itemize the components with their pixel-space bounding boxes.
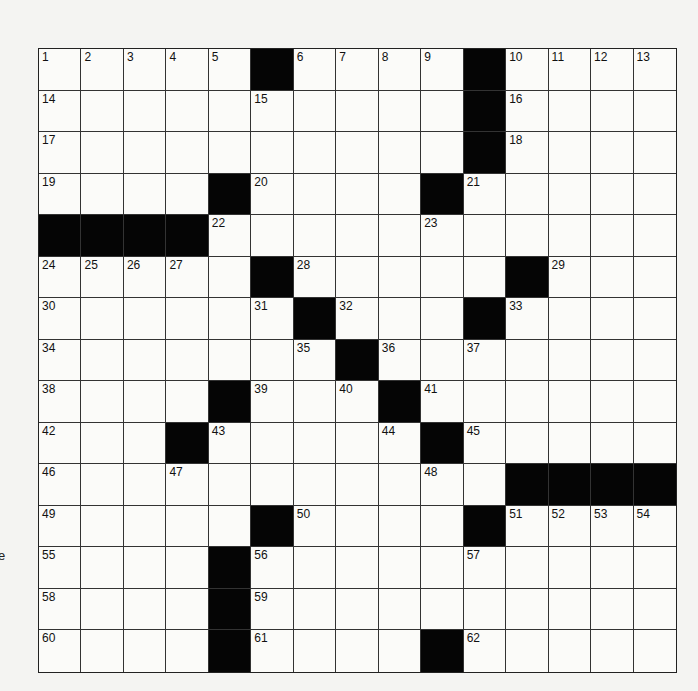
crossword-cell[interactable] <box>294 423 336 465</box>
crossword-cell[interactable] <box>379 215 421 257</box>
crossword-cell[interactable]: 55 <box>39 547 81 589</box>
crossword-cell[interactable] <box>506 589 548 631</box>
crossword-cell[interactable] <box>549 630 591 672</box>
crossword-cell[interactable]: 58 <box>39 589 81 631</box>
crossword-cell[interactable] <box>379 132 421 174</box>
crossword-cell[interactable] <box>251 464 293 506</box>
crossword-cell[interactable] <box>209 257 251 299</box>
crossword-cell[interactable] <box>549 381 591 423</box>
crossword-cell[interactable] <box>81 132 123 174</box>
crossword-cell[interactable] <box>549 423 591 465</box>
crossword-cell[interactable] <box>294 91 336 133</box>
crossword-cell[interactable] <box>336 174 378 216</box>
crossword-cell[interactable]: 49 <box>39 506 81 548</box>
crossword-cell[interactable] <box>294 630 336 672</box>
crossword-cell[interactable] <box>251 132 293 174</box>
crossword-cell[interactable] <box>251 340 293 382</box>
crossword-cell[interactable] <box>336 132 378 174</box>
crossword-cell[interactable]: 30 <box>39 298 81 340</box>
crossword-cell[interactable] <box>336 423 378 465</box>
crossword-cell[interactable]: 16 <box>506 91 548 133</box>
crossword-cell[interactable]: 46 <box>39 464 81 506</box>
crossword-cell[interactable] <box>506 423 548 465</box>
crossword-cell[interactable] <box>591 215 633 257</box>
crossword-cell[interactable]: 31 <box>251 298 293 340</box>
crossword-cell[interactable] <box>294 381 336 423</box>
crossword-cell[interactable] <box>209 91 251 133</box>
crossword-cell[interactable] <box>124 381 166 423</box>
crossword-cell[interactable] <box>294 464 336 506</box>
crossword-cell[interactable] <box>251 423 293 465</box>
crossword-cell[interactable]: 29 <box>549 257 591 299</box>
crossword-cell[interactable] <box>506 340 548 382</box>
crossword-cell[interactable]: 21 <box>464 174 506 216</box>
crossword-cell[interactable]: 59 <box>251 589 293 631</box>
crossword-cell[interactable] <box>379 589 421 631</box>
crossword-cell[interactable] <box>81 298 123 340</box>
crossword-cell[interactable] <box>81 547 123 589</box>
crossword-cell[interactable] <box>506 630 548 672</box>
crossword-cell[interactable]: 14 <box>39 91 81 133</box>
crossword-cell[interactable] <box>549 589 591 631</box>
crossword-cell[interactable] <box>124 589 166 631</box>
crossword-cell[interactable] <box>124 298 166 340</box>
crossword-cell[interactable] <box>251 215 293 257</box>
crossword-cell[interactable]: 33 <box>506 298 548 340</box>
crossword-cell[interactable]: 35 <box>294 340 336 382</box>
crossword-cell[interactable] <box>209 506 251 548</box>
crossword-cell[interactable]: 8 <box>379 49 421 91</box>
crossword-cell[interactable] <box>124 174 166 216</box>
crossword-cell[interactable] <box>506 547 548 589</box>
crossword-cell[interactable]: 37 <box>464 340 506 382</box>
crossword-cell[interactable] <box>166 132 208 174</box>
crossword-cell[interactable]: 61 <box>251 630 293 672</box>
crossword-cell[interactable] <box>549 215 591 257</box>
crossword-cell[interactable]: 5 <box>209 49 251 91</box>
crossword-cell[interactable]: 53 <box>591 506 633 548</box>
crossword-cell[interactable]: 50 <box>294 506 336 548</box>
crossword-cell[interactable] <box>591 132 633 174</box>
crossword-cell[interactable] <box>81 630 123 672</box>
crossword-cell[interactable] <box>209 340 251 382</box>
crossword-cell[interactable]: 32 <box>336 298 378 340</box>
crossword-cell[interactable]: 43 <box>209 423 251 465</box>
crossword-cell[interactable] <box>464 589 506 631</box>
crossword-cell[interactable] <box>124 340 166 382</box>
crossword-cell[interactable] <box>294 589 336 631</box>
crossword-cell[interactable]: 26 <box>124 257 166 299</box>
crossword-cell[interactable] <box>634 423 676 465</box>
crossword-cell[interactable]: 56 <box>251 547 293 589</box>
crossword-cell[interactable] <box>421 589 463 631</box>
crossword-cell[interactable] <box>506 174 548 216</box>
crossword-cell[interactable] <box>294 215 336 257</box>
crossword-cell[interactable]: 62 <box>464 630 506 672</box>
crossword-cell[interactable] <box>336 257 378 299</box>
crossword-cell[interactable]: 60 <box>39 630 81 672</box>
crossword-cell[interactable]: 19 <box>39 174 81 216</box>
crossword-cell[interactable]: 45 <box>464 423 506 465</box>
crossword-cell[interactable]: 6 <box>294 49 336 91</box>
crossword-cell[interactable] <box>421 506 463 548</box>
crossword-cell[interactable]: 12 <box>591 49 633 91</box>
crossword-cell[interactable]: 23 <box>421 215 463 257</box>
crossword-cell[interactable]: 20 <box>251 174 293 216</box>
crossword-cell[interactable] <box>379 91 421 133</box>
crossword-cell[interactable] <box>166 174 208 216</box>
crossword-cell[interactable]: 54 <box>634 506 676 548</box>
crossword-cell[interactable] <box>634 630 676 672</box>
crossword-cell[interactable] <box>421 91 463 133</box>
crossword-cell[interactable]: 28 <box>294 257 336 299</box>
crossword-cell[interactable] <box>379 257 421 299</box>
crossword-cell[interactable] <box>166 506 208 548</box>
crossword-cell[interactable] <box>379 464 421 506</box>
crossword-cell[interactable] <box>81 506 123 548</box>
crossword-cell[interactable] <box>166 589 208 631</box>
crossword-cell[interactable] <box>421 132 463 174</box>
crossword-cell[interactable] <box>591 630 633 672</box>
crossword-cell[interactable] <box>591 91 633 133</box>
crossword-cell[interactable] <box>379 174 421 216</box>
crossword-cell[interactable] <box>81 381 123 423</box>
crossword-cell[interactable] <box>379 630 421 672</box>
crossword-cell[interactable] <box>464 464 506 506</box>
crossword-cell[interactable]: 44 <box>379 423 421 465</box>
